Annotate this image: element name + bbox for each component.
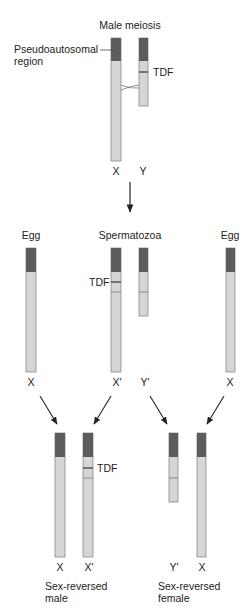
label-female-x: X: [198, 561, 205, 573]
label-tdf-bottom: TDF: [97, 462, 117, 474]
arrow-sperm-xprime: [94, 396, 111, 424]
label-male-x: X: [56, 561, 63, 573]
sperm-yprime-chromosome: [139, 248, 148, 316]
egg-right-x-chromosome: [226, 248, 235, 372]
label-sperm-xprime: X': [112, 376, 121, 388]
crossover-lines: [121, 85, 139, 90]
label-female-yprime: Y': [169, 561, 178, 573]
label-egg-right-x: X: [226, 376, 233, 388]
female-x-chromosome: [197, 433, 206, 557]
egg-left-x-chromosome: [26, 248, 36, 372]
label-male-xprime: X': [84, 561, 93, 573]
male-x-chromosome: [55, 433, 65, 557]
top-y-chromosome: [139, 38, 148, 106]
title-spermatozoa: Spermatozoa: [99, 229, 161, 241]
label-pseudoautosomal-1: Pseudoautosomal: [14, 43, 98, 55]
female-yprime-chromosome: [169, 433, 178, 502]
label-top-y: Y: [139, 165, 146, 177]
arrow-egg-left: [40, 396, 57, 424]
title-male-meiosis: Male meiosis: [99, 19, 160, 31]
title-egg-left: Egg: [22, 229, 41, 241]
top-x-chromosome: [111, 38, 121, 161]
caption-male-2: male: [45, 592, 68, 604]
label-top-x: X: [112, 165, 119, 177]
title-egg-right: Egg: [221, 229, 240, 241]
diagram-canvas: [0, 0, 247, 613]
male-xprime-chromosome: [83, 433, 93, 557]
label-sperm-yprime: Y': [140, 376, 149, 388]
arrow-egg-right: [207, 396, 224, 424]
caption-male-1: Sex-reversed: [45, 580, 107, 592]
label-tdf-top: TDF: [153, 66, 173, 78]
arrow-sperm-yprime: [150, 396, 167, 424]
caption-female-1: Sex-reversed: [158, 580, 220, 592]
label-pseudoautosomal-2: region: [14, 55, 43, 67]
sperm-xprime-chromosome: [111, 248, 121, 372]
label-tdf-mid: TDF: [89, 276, 109, 288]
label-egg-left-x: X: [27, 376, 34, 388]
caption-female-2: female: [158, 592, 190, 604]
